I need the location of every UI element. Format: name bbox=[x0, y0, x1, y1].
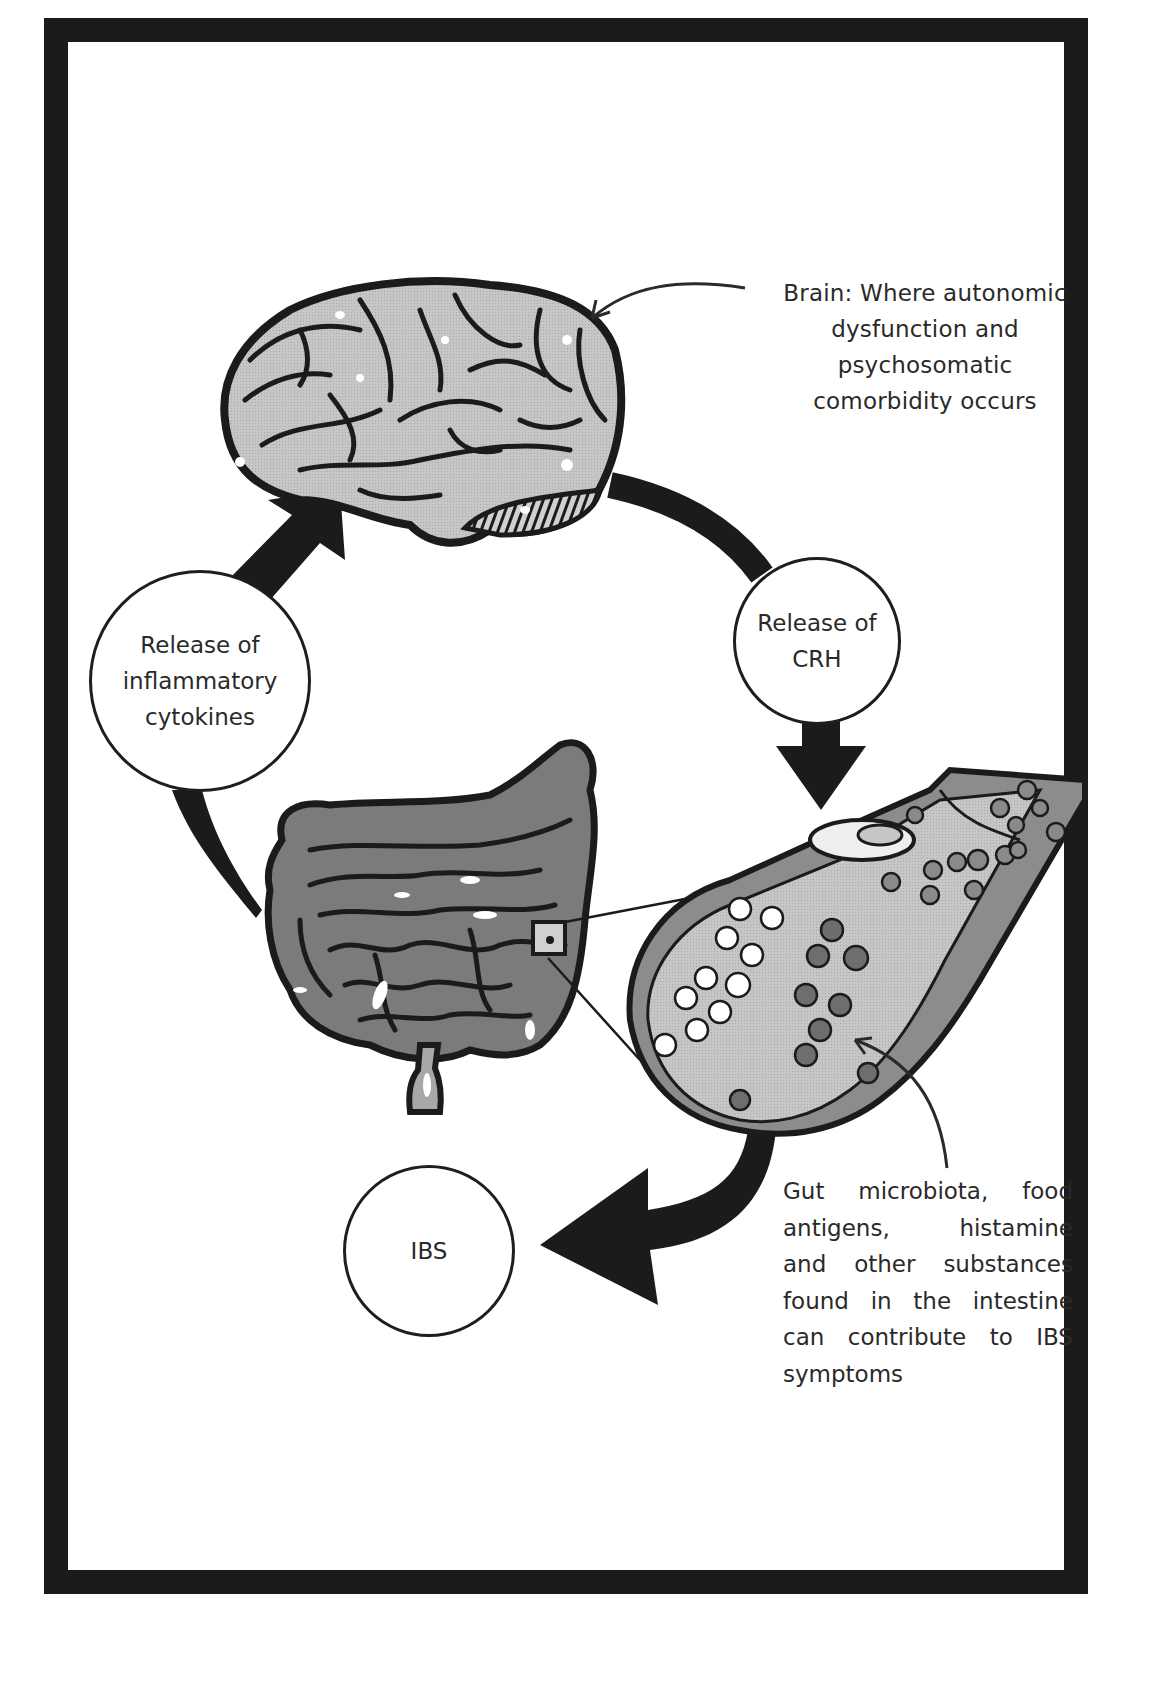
gut-label-line: found in the intestine bbox=[783, 1283, 1073, 1320]
node-ibs: IBS bbox=[343, 1165, 515, 1337]
gut-description-label: Gut microbiota, food antigens, histamine… bbox=[783, 1173, 1073, 1392]
node-release-of-cytokines: Release of inflammatory cytokines bbox=[89, 570, 311, 792]
word: in bbox=[871, 1283, 892, 1320]
node-label: Release of bbox=[123, 627, 278, 663]
intestine-illustration bbox=[268, 743, 594, 1112]
word: Gut bbox=[783, 1173, 824, 1210]
gut-label-line: symptoms bbox=[783, 1356, 1073, 1393]
word: IBS bbox=[1036, 1319, 1073, 1356]
brain-label-line: psychosomatic bbox=[760, 347, 1090, 383]
word: can bbox=[783, 1319, 824, 1356]
word: other bbox=[854, 1246, 915, 1283]
node-label: Release of bbox=[757, 605, 876, 641]
word: microbiota, bbox=[858, 1173, 988, 1210]
word: food bbox=[1022, 1173, 1073, 1210]
brain-label-line: dysfunction and bbox=[760, 311, 1090, 347]
node-label: inflammatory bbox=[123, 663, 278, 699]
word: contribute bbox=[848, 1319, 967, 1356]
node-label: cytokines bbox=[123, 699, 278, 735]
brain-description-label: Brain: Where autonomic dysfunction and p… bbox=[760, 275, 1090, 419]
brain-pointer-arrow bbox=[592, 284, 745, 318]
word: the bbox=[913, 1283, 951, 1320]
word: to bbox=[990, 1319, 1013, 1356]
gut-label-line: Gut microbiota, food bbox=[783, 1173, 1073, 1210]
word: substances bbox=[943, 1246, 1073, 1283]
arrow-brain-to-crh bbox=[610, 485, 762, 575]
gut-label-line: and other substances bbox=[783, 1246, 1073, 1283]
node-label: CRH bbox=[757, 641, 876, 677]
arrow-intestine-to-ibs bbox=[540, 1130, 776, 1305]
word: intestine bbox=[973, 1283, 1073, 1320]
word: antigens, bbox=[783, 1210, 890, 1247]
node-label: IBS bbox=[411, 1233, 448, 1269]
word: histamine bbox=[959, 1210, 1073, 1247]
brain-label-line: comorbidity occurs bbox=[760, 383, 1090, 419]
word: found bbox=[783, 1283, 849, 1320]
brain-label-line: Brain: Where autonomic bbox=[760, 275, 1090, 311]
arrow-intestine-to-cytokines bbox=[172, 790, 262, 918]
word: and bbox=[783, 1246, 826, 1283]
word: symptoms bbox=[783, 1361, 903, 1387]
gut-label-line: antigens, histamine bbox=[783, 1210, 1073, 1247]
node-release-of-crh: Release of CRH bbox=[733, 557, 901, 725]
intestinal-lumen-illustration bbox=[630, 770, 1085, 1134]
gut-label-line: can contribute to IBS bbox=[783, 1319, 1073, 1356]
